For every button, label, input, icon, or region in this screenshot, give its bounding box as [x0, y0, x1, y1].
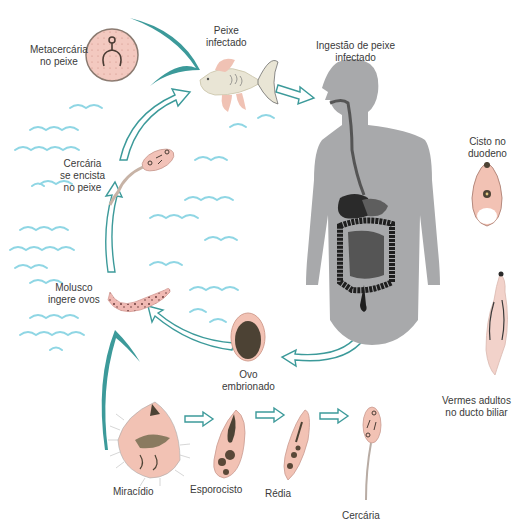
human-body-icon [306, 59, 440, 345]
label-line: Metacercária [30, 44, 88, 56]
label-line: Vermes adultos [442, 395, 511, 407]
cycle-arrow-icon [102, 18, 200, 450]
metacercaria-label: Metacercária no peixe [30, 44, 88, 68]
life-cycle-diagram: Metacercária no peixe Peixe infectado In… [0, 0, 529, 526]
label-line: no peixe [30, 56, 88, 68]
mollusk-icon [108, 288, 170, 311]
miracidium-icon [108, 402, 190, 486]
label-line: embrionado [222, 381, 275, 393]
water-waves-icon [10, 105, 274, 350]
duodenum-cyst-icon [472, 162, 502, 226]
label-line: Cisto no [468, 136, 507, 148]
label-line: Ingestão de peixe [316, 40, 395, 52]
label-line: no peixe [60, 182, 105, 194]
cercaria-bottom-icon [363, 407, 381, 500]
label-line: Ovo [222, 369, 275, 381]
redia-icon [284, 410, 309, 480]
miracidium-label: Miracídio [113, 486, 154, 498]
label-line: ingere ovos [48, 294, 100, 306]
sporocyst-label: Esporocisto [190, 484, 242, 496]
sporocyst-icon [214, 410, 245, 478]
ingestion-label: Ingestão de peixe infectado [316, 40, 395, 64]
label-line: no ducto biliar [442, 407, 511, 419]
infected-fish-label: Peixe infectado [206, 25, 247, 49]
label-line: Peixe [206, 25, 247, 37]
cyst-duodenum-label: Cisto no duodeno [468, 136, 507, 160]
metacercaria-icon [86, 29, 138, 81]
adult-worms-label: Vermes adultos no ducto biliar [442, 395, 511, 419]
label-line: infectado [316, 52, 395, 64]
fish-icon [200, 59, 278, 112]
adult-worm-icon [486, 272, 508, 376]
redia-label: Rédia [265, 488, 291, 500]
label-line: infectado [206, 37, 247, 49]
label-line: Cercária [60, 158, 105, 170]
cercaria-encysts-label: Cercária se encista no peixe [60, 158, 105, 194]
mollusk-label: Molusco ingere ovos [48, 282, 100, 306]
embryonated-egg-label: Ovo embrionado [222, 369, 275, 393]
diagram-artwork [0, 0, 529, 526]
label-line: Molusco [48, 282, 100, 294]
embryonated-egg-icon [231, 313, 265, 361]
label-line: duodeno [468, 148, 507, 160]
cercaria-label: Cercária [342, 510, 380, 522]
label-line: se encista [60, 170, 105, 182]
